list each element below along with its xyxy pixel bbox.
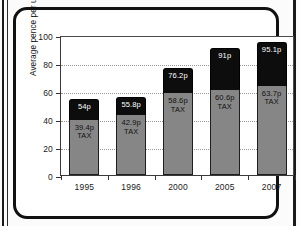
x-axis-label-2000: 2000: [168, 182, 188, 192]
bar-tax-word-label: TAX: [218, 103, 232, 111]
bar-segment-total-price: 54p: [69, 99, 99, 119]
y-axis-tick-label: 40: [43, 116, 53, 126]
bar-tax-word-label: TAX: [124, 128, 138, 136]
bar-segment-tax: 63.7pTAX: [257, 86, 287, 175]
bar-segment-tax: 58.6pTAX: [163, 93, 193, 175]
x-axis-label-2007: 2007: [262, 182, 282, 192]
bar-2005[interactable]: 91p60.6pTAX: [210, 48, 240, 175]
page-left-rule-outer: [2, 0, 4, 226]
bar-segment-total-price: 55.8p: [116, 97, 146, 115]
bar-segment-total-price: 95.1p: [257, 42, 287, 86]
x-axis-label-1996: 1996: [121, 182, 141, 192]
y-axis-tick-label: 100: [38, 32, 53, 42]
bar-1995[interactable]: 54p39.4pTAX: [69, 99, 99, 175]
x-axis-tick: [201, 175, 202, 180]
y-axis-tick: [56, 93, 61, 94]
y-axis-tick-label: 0: [48, 172, 53, 182]
bar-total-label: 54p: [78, 103, 91, 112]
bar-segment-tax: 42.9pTAX: [116, 115, 146, 175]
bar-total-label: 95.1p: [262, 46, 282, 55]
x-axis-label-2005: 2005: [215, 182, 235, 192]
y-axis-tick: [56, 121, 61, 122]
bar-total-label: 55.8p: [121, 101, 141, 110]
bar-tax-word-label: TAX: [171, 106, 185, 114]
y-axis-tick-label: 80: [43, 60, 53, 70]
y-axis-title: Average pence per unleaded litre: [29, 0, 38, 76]
bar-1996[interactable]: 55.8p42.9pTAX: [116, 97, 146, 175]
y-axis-title-container: Average pence per unleaded litre: [30, 36, 44, 176]
page-background: Average pence per unleaded litre 0204060…: [0, 0, 299, 226]
bar-segment-tax: 60.6pTAX: [210, 90, 240, 175]
bar-2007[interactable]: 95.1p63.7pTAX: [257, 42, 287, 175]
y-axis-tick-label: 60: [43, 88, 53, 98]
figure-frame: Average pence per unleaded litre 0204060…: [13, 7, 279, 219]
bar-total-label: 76.2p: [168, 72, 188, 81]
bar-tax-word-label: TAX: [264, 98, 278, 106]
x-axis-tick: [295, 175, 296, 180]
y-axis-tick-label: 20: [43, 144, 53, 154]
bar-segment-total-price: 76.2p: [163, 68, 193, 93]
page-left-rule-inner: [7, 0, 8, 226]
bar-2000[interactable]: 76.2p58.6pTAX: [163, 68, 193, 175]
plot-area: 02040608010054p39.4pTAX199555.8p42.9pTAX…: [60, 36, 294, 176]
bar-segment-tax: 39.4pTAX: [69, 120, 99, 175]
bar-tax-word-label: TAX: [77, 132, 91, 140]
x-axis-tick: [61, 175, 62, 180]
bar-segment-total-price: 91p: [210, 48, 240, 91]
y-axis-tick: [56, 149, 61, 150]
x-axis-tick: [248, 175, 249, 180]
x-axis-tick: [108, 175, 109, 180]
x-axis-label-1995: 1995: [75, 182, 95, 192]
x-axis-tick: [155, 175, 156, 180]
bar-total-label: 91p: [218, 52, 231, 61]
y-axis-tick: [56, 37, 61, 38]
y-axis-tick: [56, 65, 61, 66]
